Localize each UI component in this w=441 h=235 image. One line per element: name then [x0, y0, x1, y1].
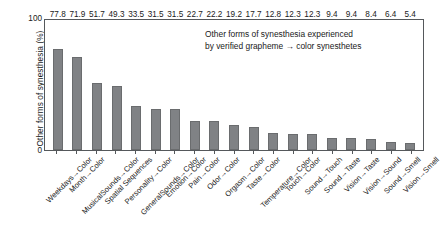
- bar-slot: 9.4: [342, 20, 362, 150]
- bar-value-label: 9.4: [326, 10, 337, 19]
- x-label-slot: Vision→Sound: [362, 155, 382, 235]
- bar-value-label: 12.8: [265, 10, 281, 19]
- bar-slot: 77.8: [48, 20, 68, 150]
- x-tick-mark: [155, 151, 156, 154]
- bar-slot: 5.4: [400, 20, 420, 150]
- bar[interactable]: 19.2: [229, 125, 239, 150]
- bar-value-label: 6.4: [385, 10, 396, 19]
- x-tick-mark: [293, 151, 294, 154]
- bar-value-label: 77.8: [50, 10, 66, 19]
- bar[interactable]: 6.4: [386, 142, 396, 150]
- bar[interactable]: 51.7: [92, 83, 102, 150]
- bar-slot: 51.7: [87, 20, 107, 150]
- bar-value-label: 12.3: [304, 10, 320, 19]
- bar-slot: 17.7: [244, 20, 264, 150]
- x-label-slot: Vision→Taste: [342, 155, 362, 235]
- bar[interactable]: 31.5: [170, 109, 180, 150]
- bar-value-label: 33.5: [128, 10, 144, 19]
- y-tick-label-100: 100: [16, 14, 42, 23]
- x-label-slot: Personality→Color: [126, 155, 146, 235]
- bar[interactable]: 49.3: [112, 86, 122, 150]
- bar[interactable]: 22.2: [209, 121, 219, 150]
- x-tick-mark: [332, 151, 333, 154]
- bar-value-label: 8.4: [365, 10, 376, 19]
- bar[interactable]: 9.4: [327, 138, 337, 150]
- x-tick-mark: [174, 151, 175, 154]
- x-tick-mark: [273, 151, 274, 154]
- bar-slot: 71.9: [68, 20, 88, 150]
- bar[interactable]: 17.7: [249, 127, 259, 150]
- x-label-slot: Month→Color: [67, 155, 87, 235]
- bar-slot: 12.3: [303, 20, 323, 150]
- x-label-slot: GeneralSounds→Color: [145, 155, 165, 235]
- x-tick-mark: [411, 151, 412, 154]
- x-label-slot: Odor→Color: [205, 155, 225, 235]
- bar-slot: 22.7: [185, 20, 205, 150]
- bar[interactable]: 12.3: [288, 134, 298, 150]
- x-tick-mark: [96, 151, 97, 154]
- bar-value-label: 51.7: [89, 10, 105, 19]
- bar-slot: 19.2: [224, 20, 244, 150]
- bar[interactable]: 22.7: [190, 121, 200, 151]
- x-tick-mark: [135, 151, 136, 154]
- x-axis-labels: Weekdays→ColorMonth→ColorMusicalSounds→C…: [44, 155, 424, 235]
- bar-slot: 6.4: [381, 20, 401, 150]
- bar-slot: 9.4: [322, 20, 342, 150]
- bar[interactable]: 77.8: [53, 49, 63, 150]
- bar-slot: 33.5: [126, 20, 146, 150]
- bar[interactable]: 8.4: [366, 139, 376, 150]
- bar-value-label: 22.2: [206, 10, 222, 19]
- x-tick-mark: [352, 151, 353, 154]
- bar-slot: 31.5: [165, 20, 185, 150]
- x-label-slot: Pain→Color: [185, 155, 205, 235]
- x-label-slot: Sound→Touch: [303, 155, 323, 235]
- x-tick-mark: [312, 151, 313, 154]
- bar-value-label: 12.3: [285, 10, 301, 19]
- bar-series: 77.871.951.749.333.531.531.522.722.219.2…: [45, 20, 423, 150]
- bar[interactable]: 5.4: [405, 143, 415, 150]
- bar-value-label: 71.9: [69, 10, 85, 19]
- bar-value-label: 49.3: [109, 10, 125, 19]
- x-label-slot: MusicalSounds→Color: [86, 155, 106, 235]
- bar-value-label: 5.4: [404, 10, 415, 19]
- bar[interactable]: 31.5: [151, 109, 161, 150]
- x-tick-mark: [371, 151, 372, 154]
- bar-slot: 31.5: [146, 20, 166, 150]
- bar-slot: 12.8: [263, 20, 283, 150]
- bar[interactable]: 33.5: [131, 106, 141, 150]
- y-axis: Other forms of synesthesia (%) 100 0: [12, 0, 42, 235]
- x-label-slot: Temperature→Color: [264, 155, 284, 235]
- bar-slot: 8.4: [361, 20, 381, 150]
- bar-value-label: 9.4: [346, 10, 357, 19]
- x-tick-mark: [115, 151, 116, 154]
- x-label-slot: Touch→Color: [283, 155, 303, 235]
- x-label-slot: Sound→Taste: [323, 155, 343, 235]
- x-tick-mark: [391, 151, 392, 154]
- x-tick-mark: [214, 151, 215, 154]
- bar-value-label: 31.5: [167, 10, 183, 19]
- bar[interactable]: 12.3: [307, 134, 317, 150]
- y-tick-label-0: 0: [16, 146, 42, 155]
- x-label-slot: Sound→Smell: [382, 155, 402, 235]
- bar[interactable]: 12.8: [268, 133, 278, 150]
- bar[interactable]: 71.9: [72, 57, 82, 150]
- bar-value-label: 31.5: [148, 10, 164, 19]
- x-tick-mark: [234, 151, 235, 154]
- x-label-slot: Orgasm→Color: [224, 155, 244, 235]
- bar-value-label: 17.7: [246, 10, 262, 19]
- x-tick-mark: [56, 151, 57, 154]
- x-label-slot: Taste→Color: [244, 155, 264, 235]
- bar-value-label: 22.7: [187, 10, 203, 19]
- bar[interactable]: 9.4: [346, 138, 356, 150]
- plot-area: Other forms of synesthesia experienced b…: [44, 19, 424, 151]
- bar-slot: 22.2: [205, 20, 225, 150]
- bar-slot: 12.3: [283, 20, 303, 150]
- x-tick-mark: [253, 151, 254, 154]
- x-tick-mark: [76, 151, 77, 154]
- bar-slot: 49.3: [107, 20, 127, 150]
- x-label-slot: Emotion→Color: [165, 155, 185, 235]
- x-label-slot: Vision→Smell: [401, 155, 421, 235]
- bar-value-label: 19.2: [226, 10, 242, 19]
- x-label-slot: Weekdays→Color: [47, 155, 67, 235]
